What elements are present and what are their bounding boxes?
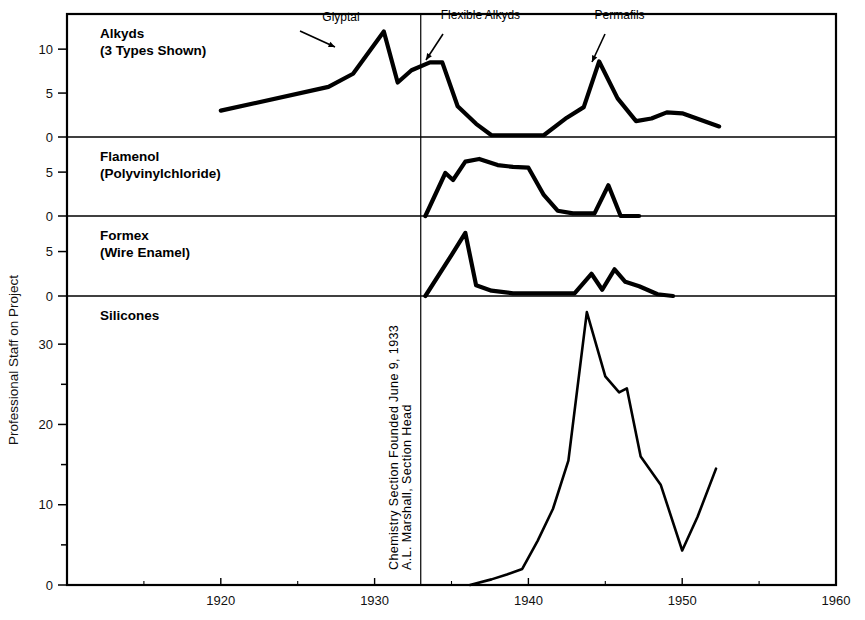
panel-title-flamenol: Flamenol xyxy=(100,149,159,164)
multi-panel-line-chart: 192019301940195019600510Alkyds(3 Types S… xyxy=(0,0,865,620)
xtick-label-1920: 1920 xyxy=(206,593,235,608)
annotation-label-alkyds-1: Flexible Alkyds xyxy=(441,8,520,22)
chart-root: 192019301940195019600510Alkyds(3 Types S… xyxy=(0,0,865,620)
series-line-silicones-0 xyxy=(470,312,716,585)
y-axis-title: Professional Staff on Project xyxy=(6,275,21,445)
panel-subtitle-flamenol: (Polyvinylchloride) xyxy=(100,166,221,181)
panel-title-formex: Formex xyxy=(100,228,149,243)
xtick-label-1940: 1940 xyxy=(514,593,543,608)
annotation-label-alkyds-0: Glyptal xyxy=(322,10,359,24)
ytick-label-silicones-30: 30 xyxy=(39,337,53,352)
ytick-label-silicones-10: 10 xyxy=(39,497,53,512)
plot-frame xyxy=(67,14,836,585)
ytick-label-flamenol-5: 5 xyxy=(46,165,53,180)
series-line-alkyds-0 xyxy=(221,32,719,136)
ytick-label-alkyds-0: 0 xyxy=(46,130,53,145)
ytick-label-silicones-20: 20 xyxy=(39,417,53,432)
ytick-label-silicones-0: 0 xyxy=(46,578,53,593)
panel-title-silicones: Silicones xyxy=(100,308,159,323)
panel-title-alkyds: Alkyds xyxy=(100,26,144,41)
ytick-label-formex-5: 5 xyxy=(46,244,53,259)
divider-note-line1: Chemistry Section Founded June 9, 1933 xyxy=(387,325,401,570)
ytick-label-alkyds-10: 10 xyxy=(39,42,53,57)
series-line-formex-0 xyxy=(425,233,673,296)
xtick-label-1960: 1960 xyxy=(822,593,851,608)
xtick-label-1930: 1930 xyxy=(360,593,389,608)
xtick-label-1950: 1950 xyxy=(668,593,697,608)
annotation-label-alkyds-2: Permafils xyxy=(595,8,645,22)
ytick-label-flamenol-0: 0 xyxy=(46,209,53,224)
chart-generated-content: 192019301940195019600510Alkyds(3 Types S… xyxy=(6,8,850,608)
series-line-flamenol-0 xyxy=(425,159,639,216)
ytick-label-alkyds-5: 5 xyxy=(46,86,53,101)
divider-note-line2: A.L. Marshall, Section Head xyxy=(400,404,414,570)
panel-subtitle-formex: (Wire Enamel) xyxy=(100,245,190,260)
ytick-label-formex-0: 0 xyxy=(46,289,53,304)
panel-subtitle-alkyds: (3 Types Shown) xyxy=(100,43,206,58)
